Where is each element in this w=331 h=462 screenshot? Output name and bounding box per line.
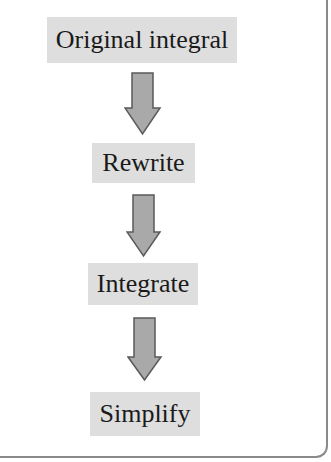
down-arrow-icon bbox=[124, 72, 162, 136]
step-integrate: Integrate bbox=[88, 263, 198, 305]
step-label: Original integral bbox=[56, 25, 229, 55]
diagram-frame bbox=[0, 0, 328, 458]
step-simplify: Simplify bbox=[90, 392, 200, 436]
step-original-integral: Original integral bbox=[47, 17, 237, 63]
down-arrow-icon bbox=[127, 317, 163, 381]
step-label: Rewrite bbox=[102, 148, 184, 178]
down-arrow-icon bbox=[126, 194, 162, 258]
step-label: Integrate bbox=[97, 269, 189, 299]
step-rewrite: Rewrite bbox=[92, 143, 195, 183]
step-label: Simplify bbox=[99, 399, 190, 429]
